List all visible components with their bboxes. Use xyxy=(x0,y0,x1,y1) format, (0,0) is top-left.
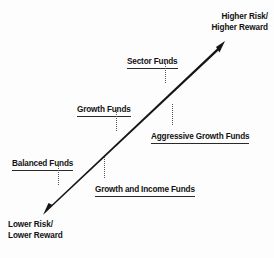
higher-risk-reward-label: Higher Risk/ Higher Reward xyxy=(212,12,268,33)
callout-aggressive-growth-funds-label: Aggressive Growth Funds xyxy=(151,132,249,144)
leader-line-sector-funds xyxy=(165,63,166,83)
spectrum-bar-bottom-tip xyxy=(43,203,53,215)
callout-growth-funds-label: Growth Funds xyxy=(77,105,131,117)
callout-balanced-funds: Balanced Funds xyxy=(12,152,73,171)
callout-growth-and-income-funds-label: Growth and Income Funds xyxy=(95,185,195,197)
callout-sector-funds: Sector Funds xyxy=(127,50,178,69)
callout-growth-and-income-funds: Growth and Income Funds xyxy=(95,178,195,197)
risk-reward-diagram: Higher Risk/ Higher Reward Lower Risk/ L… xyxy=(0,0,274,258)
leader-line-growth-funds xyxy=(116,110,117,131)
lower-risk-line-1: Lower Risk/ xyxy=(8,220,63,231)
higher-risk-line-1: Higher Risk/ xyxy=(212,12,268,23)
callout-balanced-funds-label: Balanced Funds xyxy=(12,159,73,171)
leader-line-growth-and-income-funds xyxy=(104,157,105,178)
leader-line-aggressive-growth-funds xyxy=(172,104,173,125)
callout-aggressive-growth-funds: Aggressive Growth Funds xyxy=(151,125,249,144)
leader-line-balanced-funds xyxy=(58,164,59,185)
callout-growth-funds: Growth Funds xyxy=(77,98,131,117)
lower-risk-reward-label: Lower Risk/ Lower Reward xyxy=(8,220,63,241)
higher-risk-line-2: Higher Reward xyxy=(212,23,268,34)
callout-sector-funds-label: Sector Funds xyxy=(127,57,178,69)
lower-risk-line-2: Lower Reward xyxy=(8,231,63,242)
